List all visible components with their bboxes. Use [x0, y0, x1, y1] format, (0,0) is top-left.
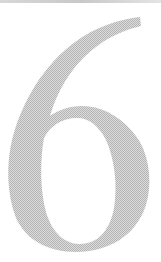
- numeral-six-figure: [0, 0, 161, 262]
- numeral-six-icon: [0, 0, 161, 262]
